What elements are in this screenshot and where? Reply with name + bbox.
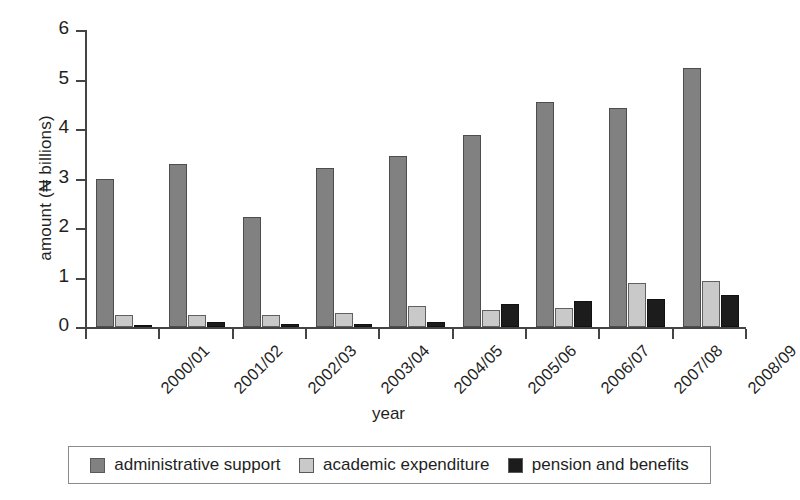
- legend-swatch-icon: [508, 458, 523, 473]
- bar: [427, 322, 445, 327]
- bar: [628, 283, 646, 327]
- plot-area: 0123456: [85, 30, 745, 327]
- bar: [555, 308, 573, 327]
- bar-group-2008-09: [683, 30, 739, 327]
- legend-swatch-icon: [90, 458, 105, 473]
- bar: [721, 295, 739, 327]
- bar: [335, 313, 353, 327]
- bar: [316, 168, 334, 327]
- x-tick-label: 2000/01: [157, 341, 214, 398]
- bar-group-2001-02: [169, 30, 225, 327]
- bar-group-2000-01: [96, 30, 152, 327]
- bar: [463, 135, 481, 327]
- bar: [134, 325, 152, 327]
- bar: [482, 310, 500, 327]
- x-tick: [378, 329, 380, 339]
- bar-group-2003-04: [316, 30, 372, 327]
- bar: [354, 324, 372, 327]
- y-tick: 0: [76, 327, 85, 329]
- bar-group-2004-05: [389, 30, 445, 327]
- legend-label: pension and benefits: [532, 455, 689, 475]
- y-axis-title: amount (₦ billions): [36, 58, 56, 318]
- chart-legend: administrative support academic expendit…: [68, 446, 711, 484]
- y-tick-label: 4: [58, 117, 69, 137]
- x-tick: [305, 329, 307, 339]
- y-tick-label: 0: [58, 315, 69, 335]
- legend-item-pension-and-benefits: pension and benefits: [508, 455, 689, 475]
- bar: [408, 306, 426, 327]
- y-tick-label: 2: [58, 216, 69, 236]
- bar: [207, 322, 225, 327]
- x-tick: [598, 329, 600, 339]
- bar: [647, 299, 665, 327]
- x-tick-label: 2005/06: [524, 341, 581, 398]
- y-tick-label: 5: [58, 68, 69, 88]
- bar: [115, 315, 133, 327]
- y-tick: 5: [76, 80, 85, 82]
- x-tick-label: 2003/04: [377, 341, 434, 398]
- bar-group-2007-08: [609, 30, 665, 327]
- legend-label: academic expenditure: [323, 455, 489, 475]
- x-tick-label: 2008/09: [744, 341, 800, 398]
- bar: [702, 281, 720, 327]
- y-axis-line: [85, 30, 87, 328]
- y-tick: 6: [76, 30, 85, 32]
- legend-label: administrative support: [114, 455, 280, 475]
- bar-group-2002-03: [243, 30, 299, 327]
- bar: [243, 217, 261, 327]
- x-tick-label: 2006/07: [597, 341, 654, 398]
- bar: [683, 68, 701, 327]
- x-tick: [232, 329, 234, 339]
- y-tick: 1: [76, 278, 85, 280]
- bar: [574, 301, 592, 327]
- legend-item-academic-expenditure: academic expenditure: [299, 455, 489, 475]
- y-tick-label: 1: [58, 266, 69, 286]
- bar: [501, 304, 519, 327]
- bar: [262, 315, 280, 327]
- x-axis-line: [85, 327, 746, 329]
- y-tick: 2: [76, 228, 85, 230]
- x-tick-label: 2002/03: [304, 341, 361, 398]
- bar: [96, 179, 114, 328]
- x-tick: [672, 329, 674, 339]
- bar: [609, 108, 627, 327]
- x-tick: [158, 329, 160, 339]
- bar: [281, 324, 299, 327]
- x-tick: [452, 329, 454, 339]
- legend-swatch-icon: [299, 458, 314, 473]
- legend-item-administrative-support: administrative support: [90, 455, 280, 475]
- x-tick-label: 2004/05: [450, 341, 507, 398]
- x-axis-title: year: [0, 404, 777, 424]
- y-tick: 3: [76, 179, 85, 181]
- bar: [188, 315, 206, 327]
- bar: [536, 102, 554, 327]
- y-tick-label: 6: [58, 18, 69, 38]
- x-tick-label: 2007/08: [670, 341, 727, 398]
- x-tick-label: 2001/02: [230, 341, 287, 398]
- y-tick: 4: [76, 129, 85, 131]
- x-tick: [525, 329, 527, 339]
- x-tick: [85, 329, 87, 339]
- bar-group-2006-07: [536, 30, 592, 327]
- x-tick: [745, 329, 747, 339]
- bar: [169, 164, 187, 327]
- bar: [389, 156, 407, 327]
- y-tick-label: 3: [58, 167, 69, 187]
- bar-group-2005-06: [463, 30, 519, 327]
